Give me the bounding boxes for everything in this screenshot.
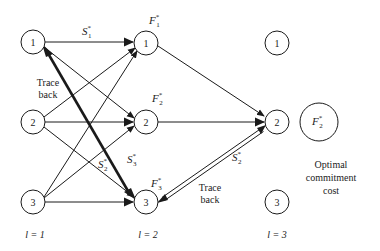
state-label-s1: S*1 (82, 24, 92, 40)
svg-text:back: back (201, 194, 220, 205)
svg-text:Optimal: Optimal (315, 159, 348, 170)
node-label-s2n3: 3 (144, 197, 149, 208)
svg-text:cost: cost (323, 185, 339, 196)
state-label-s3: S*3 (127, 152, 137, 168)
svg-text:Trace: Trace (199, 182, 222, 193)
trace-back-annotation-1: Trace back (37, 77, 60, 100)
svg-text:back: back (39, 89, 58, 100)
edges-stage1-to-stage2 (44, 42, 137, 202)
trace-back-annotation-2: Trace back (199, 182, 222, 205)
edges-stage2-to-stage3 (158, 46, 264, 122)
edge-s1n3-s2n2 (44, 126, 134, 198)
arrowhead-icon (157, 194, 168, 203)
node-label-s1n2: 2 (31, 117, 36, 128)
node-label-s3n1: 1 (275, 38, 280, 49)
cost-label-f2: F*2 (151, 91, 163, 107)
dp-stage-diagram: 1 2 3 1 2 3 1 2 3 F*1 F*2 F*3 F*2 S*1 S*… (0, 0, 380, 251)
state-label-s2-stage2: S*2 (232, 150, 242, 166)
svg-text:Trace: Trace (37, 77, 60, 88)
stage-label-1: l = 1 (25, 229, 45, 240)
stage-label-2: l = 2 (138, 229, 158, 240)
cost-label-f1: F*1 (148, 13, 160, 29)
node-label-s3n2: 2 (275, 117, 280, 128)
node-label-s1n1: 1 (31, 37, 36, 48)
optimal-commitment-cost-annotation: Optimal commitment cost (306, 159, 357, 196)
arrowhead-icon (257, 125, 266, 134)
node-label-s3n3: 3 (275, 197, 280, 208)
svg-text:commitment: commitment (306, 172, 357, 183)
cost-label-f3: F*3 (150, 176, 162, 192)
stage-labels: l = 1 l = 2 l = 3 (25, 229, 287, 240)
node-label-s2n2: 2 (144, 117, 149, 128)
stage-label-3: l = 3 (267, 229, 287, 240)
edge-s2n1-s3n2 (158, 46, 264, 116)
node-label-s2n1: 1 (144, 38, 149, 49)
node-label-s1n3: 3 (31, 197, 36, 208)
